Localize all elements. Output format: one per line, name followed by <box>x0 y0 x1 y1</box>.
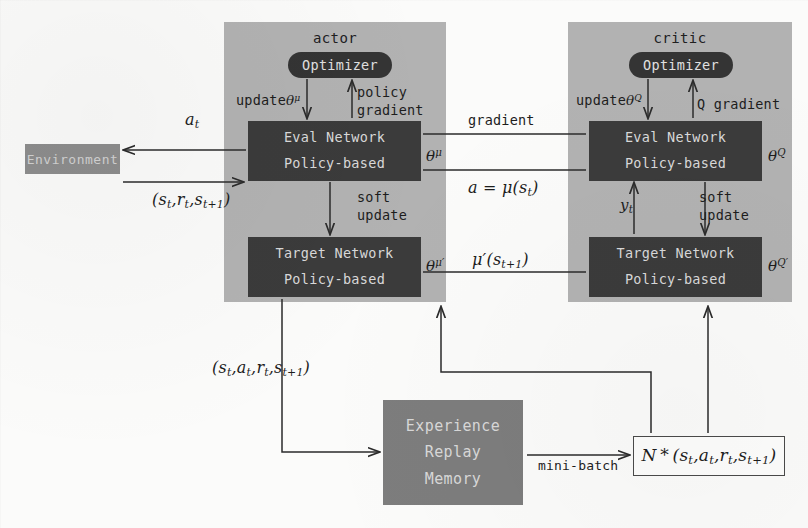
critic-update-theta-sup: Q <box>634 92 642 103</box>
actor-theta-target-sym: θ <box>426 257 435 275</box>
critic-q-gradient-label: Q gradient <box>697 96 780 112</box>
actor-update-word: update <box>236 92 286 108</box>
actor-theta-target-label: θμ′ <box>426 257 445 275</box>
critic-theta-eval-sup: Q <box>777 147 786 158</box>
action-policy-label: a = μ(st) <box>468 178 538 199</box>
wire-minibatch-to-actor-target <box>441 307 651 433</box>
critic-theta-target-sym: θ <box>768 257 777 275</box>
critic-y-sub: t <box>629 204 633 215</box>
connector-layer <box>0 0 808 528</box>
environment-transition-label: (st,rt,st+1) <box>152 190 230 211</box>
critic-soft-update-line2: update <box>699 206 749 224</box>
critic-q-gradient-text: Q gradient <box>697 96 780 112</box>
actor-theta-target-sup: μ′ <box>435 257 444 268</box>
critic-soft-update-line1: soft <box>699 188 749 206</box>
critic-theta-target-sup: Q′ <box>777 257 788 268</box>
diagram-canvas: actor Optimizer Eval Network Policy-base… <box>0 0 808 528</box>
critic-update-word: update <box>576 92 626 108</box>
actor-theta-eval-label: θμ <box>426 147 442 165</box>
actor-update-label: updateθμ <box>236 92 300 108</box>
critic-y-target-label: yt <box>620 196 633 215</box>
critic-update-label: updateθQ <box>576 92 642 108</box>
target-policy-label: μ′(st+1) <box>472 250 529 271</box>
critic-theta-eval-sym: θ <box>768 147 777 165</box>
actor-policy-gradient-label: policy gradient <box>357 83 424 119</box>
critic-y-sym: y <box>620 196 629 214</box>
actor-to-critic-gradient-label: gradient <box>468 112 535 128</box>
store-transition-label: (st,at,rt,st+1) <box>212 358 310 379</box>
action-symbol: a <box>185 110 195 129</box>
minibatch-label: mini-batch <box>538 458 618 473</box>
critic-theta-eval-label: θQ <box>768 147 786 165</box>
actor-theta-eval-sup: μ <box>435 147 442 158</box>
gradient-text: gradient <box>468 112 535 128</box>
critic-soft-update-label: soft update <box>699 188 749 224</box>
actor-soft-update-line1: soft <box>357 188 407 206</box>
actor-theta-eval-sym: θ <box>426 147 435 165</box>
environment-action-label: at <box>185 110 199 131</box>
minibatch-text: mini-batch <box>538 458 618 473</box>
actor-soft-update-label: soft update <box>357 188 407 224</box>
actor-policy-gradient-line2: gradient <box>357 101 424 119</box>
actor-soft-update-line2: update <box>357 206 407 224</box>
actor-policy-gradient-line1: policy <box>357 83 424 101</box>
action-subscript: t <box>195 118 200 131</box>
actor-update-theta-sup: μ <box>294 92 300 103</box>
critic-theta-target-label: θQ′ <box>768 257 788 275</box>
